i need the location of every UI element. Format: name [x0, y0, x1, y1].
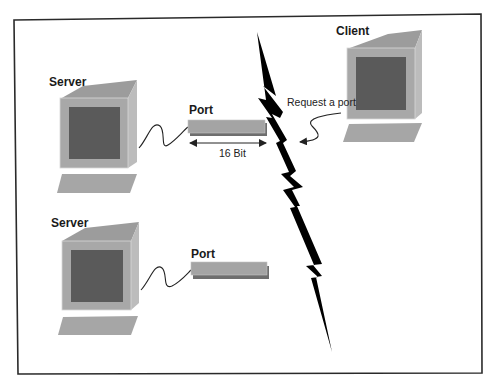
- server-bottom-keyboard: [58, 316, 138, 335]
- server-bottom-port-label: Port: [191, 247, 215, 261]
- server-bottom-computer-icon: [58, 222, 139, 335]
- client-screen: [356, 57, 406, 110]
- server-bottom-label: Server: [51, 216, 89, 230]
- port-width-label: 16 Bit: [219, 147, 246, 159]
- server-top-keyboard: [57, 174, 137, 193]
- server-top-computer-icon: [57, 80, 137, 193]
- request-port-label: Request a port: [287, 96, 356, 108]
- server-bottom-screen: [71, 250, 123, 302]
- client-label: Client: [336, 24, 369, 38]
- client-server-port-diagram: Server Port 16 Bit Server: [0, 0, 496, 382]
- client-keyboard: [343, 123, 422, 142]
- server-top-port-label: Port: [189, 103, 213, 117]
- server-top-port-bar: [188, 120, 267, 136]
- server-top-label: Server: [49, 75, 87, 89]
- server-bottom-port-bar: [191, 262, 269, 279]
- server-top-screen: [69, 107, 120, 159]
- client-computer-icon: [343, 30, 422, 142]
